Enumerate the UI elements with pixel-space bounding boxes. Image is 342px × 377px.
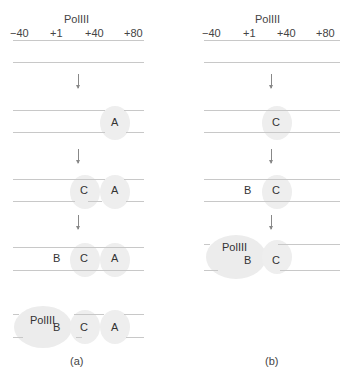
panel-b-title: PolIII — [255, 13, 280, 25]
tick-plus80: +80 — [316, 27, 335, 39]
dna-strand-top — [278, 244, 340, 245]
factor-a-label: A — [111, 184, 118, 196]
tick-minus40: −40 — [202, 27, 221, 39]
dna-strand-top — [74, 314, 104, 315]
dna-strand-bottom — [88, 201, 102, 202]
dna-strand-top — [124, 314, 144, 315]
tick-plus1: +1 — [50, 27, 63, 39]
dna-strand-top — [13, 110, 105, 111]
tick-plus80: +80 — [124, 27, 143, 39]
tick-minus40: −40 — [10, 27, 29, 39]
dna-strand-top — [13, 247, 144, 248]
dna-strand-bottom — [204, 132, 340, 133]
dna-strand-top — [124, 110, 144, 111]
dna-strand-bottom — [76, 337, 82, 338]
dna-strand-top — [13, 179, 105, 180]
dna-strand-bottom — [280, 270, 340, 271]
dna-strand-top — [204, 179, 340, 180]
dna-strand-bottom — [204, 62, 340, 63]
tick-plus1: +1 — [243, 27, 256, 39]
dna-strand-bottom — [13, 337, 23, 338]
dna-strand-bottom — [204, 201, 340, 202]
polIII-blob — [14, 306, 72, 348]
dna-strand-top — [13, 314, 19, 315]
factor-b-label: B — [53, 321, 60, 333]
factor-a-label: A — [111, 252, 118, 264]
caption-a: (a) — [70, 355, 83, 367]
caption-b: (b) — [265, 355, 278, 367]
factor-c-label: C — [80, 321, 88, 333]
down-arrow-icon — [271, 74, 272, 88]
factor-c-label: C — [80, 252, 88, 264]
dna-strand-bottom — [13, 62, 144, 63]
factor-b-label: B — [53, 252, 60, 264]
dna-strand-bottom — [13, 201, 75, 202]
tick-plus40: +40 — [85, 27, 104, 39]
factor-c-label: C — [272, 254, 280, 266]
factor-c-label: C — [272, 184, 280, 196]
factor-c-label: C — [80, 184, 88, 196]
dna-strand-bottom — [13, 132, 105, 133]
factor-c-label: C — [272, 116, 280, 128]
dna-strand-top — [124, 179, 144, 180]
dna-strand-bottom — [126, 337, 144, 338]
dna-strand-top — [204, 110, 340, 111]
factor-b-label: B — [244, 254, 251, 266]
down-arrow-icon — [271, 149, 272, 163]
panel-a-title: PolIII — [64, 13, 89, 25]
factor-b-label: B — [244, 184, 251, 196]
down-arrow-icon — [78, 149, 79, 163]
dna-strand-bottom — [126, 132, 144, 133]
factor-a-label: A — [111, 321, 118, 333]
dna-strand-top — [13, 40, 144, 41]
polIII-label: PolIII — [222, 241, 247, 253]
factor-a-label: A — [111, 116, 118, 128]
down-arrow-icon — [271, 215, 272, 229]
dna-strand-bottom — [204, 270, 218, 271]
dna-strand-top — [204, 244, 210, 245]
down-arrow-icon — [78, 74, 79, 88]
polIII-label: PolIII — [30, 314, 55, 326]
down-arrow-icon — [78, 215, 79, 229]
dna-strand-bottom — [126, 201, 144, 202]
dna-strand-bottom — [13, 270, 144, 271]
dna-strand-top — [204, 40, 340, 41]
tick-plus40: +40 — [277, 27, 296, 39]
